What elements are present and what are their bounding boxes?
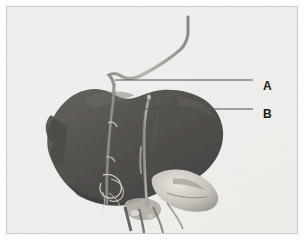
figure-root: A B	[0, 0, 305, 241]
callout-label-a: A	[263, 80, 272, 92]
tube-b-hub	[147, 94, 151, 99]
tube-b-tip	[140, 147, 141, 173]
callout-label-b: B	[263, 108, 272, 120]
specimen-photograph	[7, 7, 298, 234]
figure-frame: A B	[6, 6, 298, 234]
vessel-lumen	[131, 210, 140, 216]
vessel-lumen-small	[147, 214, 153, 218]
